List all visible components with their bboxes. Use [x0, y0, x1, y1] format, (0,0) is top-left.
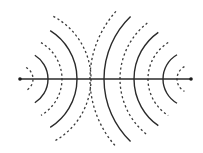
left-source-dot: [18, 77, 22, 81]
interference-diagram: [0, 0, 203, 153]
right-source-dot: [189, 77, 193, 81]
